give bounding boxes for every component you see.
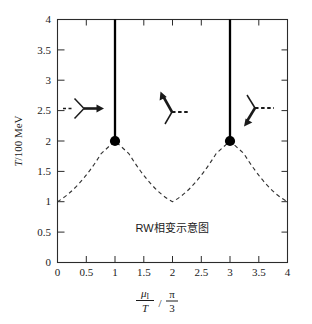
x-axis-mu-subscript: I [147,292,150,301]
y-tick-label: 0 [46,256,52,268]
y-tick-label: 1 [46,195,52,207]
x-tick-label: 0.5 [79,266,93,278]
y-tick-label: 3.5 [37,44,51,56]
x-tick-label: 1 [112,266,118,278]
rw-phase-diagram-caption: RW相变示意图 [135,221,208,234]
x-tick-label: 2 [170,266,176,278]
y-tick-label: 3 [46,74,52,86]
x-tick-label: 0 [55,266,61,278]
x-tick-label: 3.5 [252,266,266,278]
critical-endpoint-mu-1 [110,136,120,146]
x-axis-T-symbol: T [142,302,149,314]
y-tick-label: 1.5 [37,165,51,177]
y-axis-title-units: /100 MeV [12,115,24,160]
svg-text:T/100 MeV: T/100 MeV [12,115,24,166]
x-axis-three: 3 [169,302,175,314]
rw-phase-diagram-figure: 0 0.5 1 1.5 2 2.5 3 3.5 4 0 0.5 1 1.5 2 … [0,0,312,324]
x-tick-label: 3 [227,266,233,278]
x-axis-title: μI T / π 3 [136,287,178,314]
y-axis-title: T/100 MeV [12,115,24,166]
phase-diagram-svg: 0 0.5 1 1.5 2 2.5 3 3.5 4 0 0.5 1 1.5 2 … [0,0,312,324]
y-tick-label: 4 [46,13,52,25]
x-tick-label: 2.5 [194,266,208,278]
y-tick-label: 2.5 [37,104,51,116]
y-tick-label: 0.5 [37,226,51,238]
y-tick-label: 2 [46,135,52,147]
svg-text:μI: μI [140,287,150,301]
x-tick-label: 4 [285,266,291,278]
critical-endpoint-mu-3 [225,136,235,146]
x-tick-label: 1.5 [137,266,151,278]
x-axis-pi-symbol: π [169,288,175,300]
x-axis-divide-slash: / [158,297,162,309]
